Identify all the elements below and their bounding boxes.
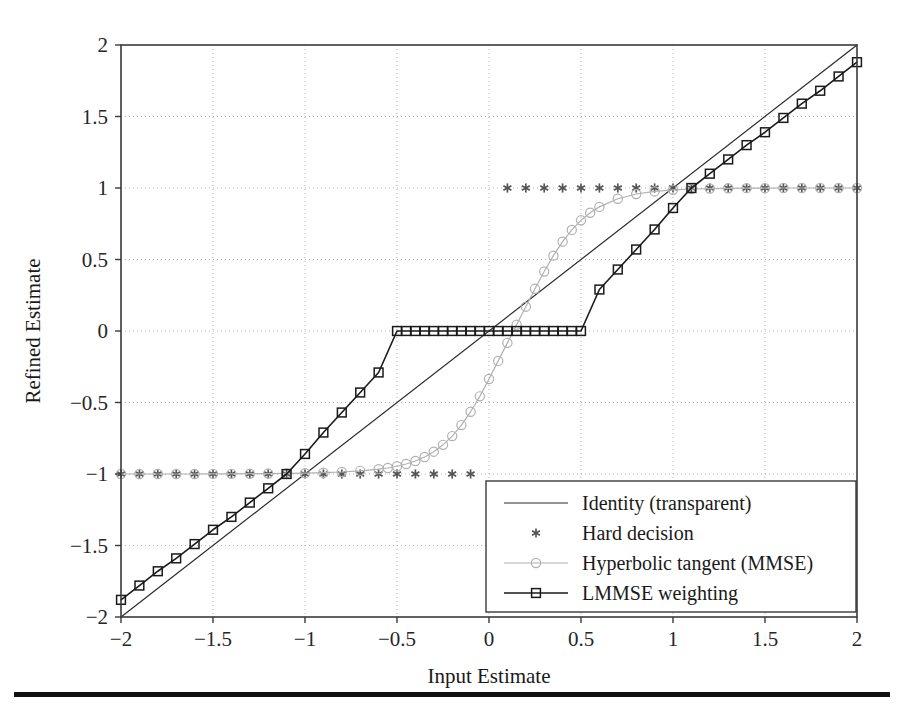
y-tick-label: −2	[86, 605, 108, 629]
y-tick-label: −0.5	[70, 391, 108, 415]
x-tick-label: 1.5	[752, 627, 778, 651]
x-tick-label: 1	[668, 627, 679, 651]
x-tick-label: 0.5	[568, 627, 594, 651]
figure-container: −2−1.5−1−0.500.511.52−2−1.5−1−0.500.511.…	[0, 0, 904, 717]
x-tick-label: −2	[110, 627, 132, 651]
y-tick-label: 1	[98, 176, 109, 200]
x-tick-label: −1	[294, 627, 316, 651]
legend-label: Hyperbolic tangent (MMSE)	[582, 552, 813, 575]
legend-label: Hard decision	[582, 522, 694, 544]
legend-label: LMMSE weighting	[582, 582, 738, 605]
x-tick-label: 2	[852, 627, 863, 651]
x-tick-label: 0	[484, 627, 495, 651]
legend: Identity (transparent)Hard decisionHyper…	[486, 481, 856, 612]
bottom-separator-rule	[14, 692, 890, 697]
y-tick-label: 1.5	[82, 105, 108, 129]
y-axis-title: Refined Estimate	[21, 258, 45, 403]
x-tick-label: −0.5	[378, 627, 416, 651]
y-tick-label: 0	[98, 319, 109, 343]
x-axis-title: Input Estimate	[427, 664, 550, 688]
y-tick-label: −1.5	[70, 534, 108, 558]
y-tick-label: −1	[86, 462, 108, 486]
y-tick-label: 2	[98, 33, 109, 57]
legend-label: Identity (transparent)	[582, 492, 751, 515]
chart-canvas: −2−1.5−1−0.500.511.52−2−1.5−1−0.500.511.…	[0, 0, 904, 717]
x-tick-label: −1.5	[194, 627, 232, 651]
y-tick-label: 0.5	[82, 248, 108, 272]
